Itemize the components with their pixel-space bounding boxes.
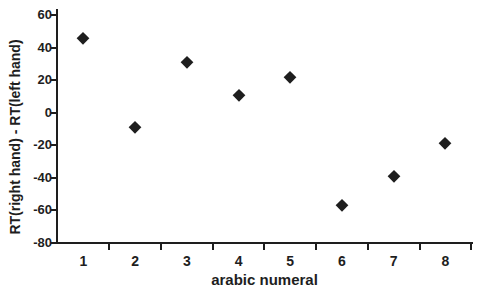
- x-axis-title: arabic numeral: [56, 271, 473, 288]
- x-axis-tick: [367, 244, 369, 250]
- scatter-chart: RT(right hand) - RT(left hand) arabic nu…: [0, 0, 481, 300]
- y-tick-label: -60: [18, 202, 52, 218]
- data-point-3: [181, 56, 193, 68]
- y-tick-label: 20: [18, 72, 52, 88]
- x-tick-label: 2: [120, 253, 150, 269]
- x-tick-label: 6: [327, 253, 357, 269]
- data-point-1: [77, 32, 89, 44]
- x-tick-label: 8: [430, 253, 460, 269]
- data-point-4: [233, 89, 245, 101]
- y-tick-label: 0: [18, 105, 52, 121]
- x-axis-tick: [315, 244, 317, 250]
- x-axis-tick: [160, 244, 162, 250]
- y-tick-label: -40: [18, 170, 52, 186]
- x-tick-label: 7: [379, 253, 409, 269]
- x-axis-tick: [108, 244, 110, 250]
- y-tick-label: -80: [18, 235, 52, 251]
- x-tick-label: 1: [68, 253, 98, 269]
- x-axis-tick: [212, 244, 214, 250]
- x-tick-label: 4: [224, 253, 254, 269]
- data-point-7: [388, 170, 400, 182]
- x-axis-tick: [470, 244, 472, 250]
- x-tick-label: 5: [275, 253, 305, 269]
- data-point-6: [336, 199, 348, 211]
- data-point-8: [439, 137, 451, 149]
- x-axis-tick: [263, 244, 265, 250]
- x-axis-tick: [419, 244, 421, 250]
- x-tick-label: 3: [172, 253, 202, 269]
- data-point-2: [129, 121, 141, 133]
- y-tick-label: 60: [18, 7, 52, 23]
- data-point-5: [284, 71, 296, 83]
- y-tick-label: -20: [18, 137, 52, 153]
- y-tick-label: 40: [18, 40, 52, 56]
